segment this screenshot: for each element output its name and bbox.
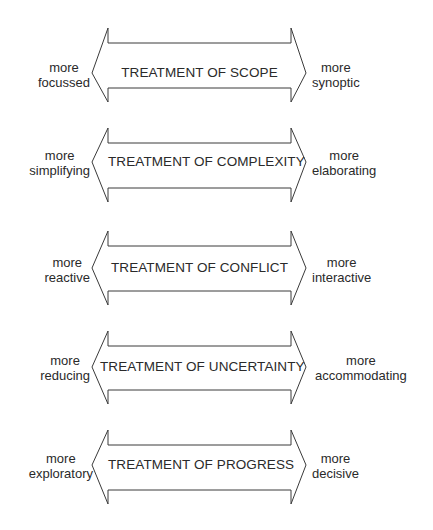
right-pole-top: more [312,148,376,163]
left-pole-top: more [44,255,90,270]
arrow-title: TREATMENT OF CONFLICT [108,260,291,275]
left-pole-label: more reactive [44,255,90,285]
right-pole-bottom: interactive [312,270,371,285]
left-pole-bottom: focussed [38,75,90,90]
left-pole-label: more focussed [38,60,90,90]
left-pole-top: more [29,451,93,466]
right-pole-label: more synoptic [312,60,360,90]
right-pole-top: more [312,451,359,466]
left-pole-label: more simplifying [29,148,90,178]
arrow-row-complexity: more simplifying TREATMENT OF COMPLEXITY… [0,128,433,204]
right-pole-top: more [315,353,407,368]
arrow-row-scope: more focussed TREATMENT OF SCOPE more sy… [0,28,433,104]
right-pole-bottom: synoptic [312,75,360,90]
right-pole-bottom: elaborating [312,163,376,178]
right-pole-top: more [312,255,371,270]
left-pole-bottom: exploratory [29,466,93,481]
arrow-title: TREATMENT OF PROGRESS [108,457,291,472]
right-pole-bottom: accommodating [315,368,407,383]
right-pole-label: more decisive [312,451,359,481]
right-pole-top: more [312,60,360,75]
left-pole-bottom: reducing [40,368,90,383]
arrow-row-uncertainty: more reducing TREATMENT OF UNCERTAINTY m… [0,331,433,407]
left-pole-label: more reducing [40,353,90,383]
arrow-row-conflict: more reactive TREATMENT OF CONFLICT more… [0,231,433,307]
left-pole-label: more exploratory [29,451,93,481]
right-pole-label: more interactive [312,255,371,285]
left-pole-bottom: reactive [44,270,90,285]
left-pole-bottom: simplifying [29,163,90,178]
arrow-row-progress: more exploratory TREATMENT OF PROGRESS m… [0,430,433,506]
right-pole-bottom: decisive [312,466,359,481]
left-pole-top: more [40,353,90,368]
left-pole-top: more [38,60,90,75]
arrow-title: TREATMENT OF COMPLEXITY [108,154,291,169]
right-pole-label: more accommodating [315,353,407,383]
arrow-title: TREATMENT OF SCOPE [108,65,291,80]
left-pole-top: more [29,148,90,163]
arrow-title: TREATMENT OF UNCERTAINTY [100,359,299,374]
right-pole-label: more elaborating [312,148,376,178]
